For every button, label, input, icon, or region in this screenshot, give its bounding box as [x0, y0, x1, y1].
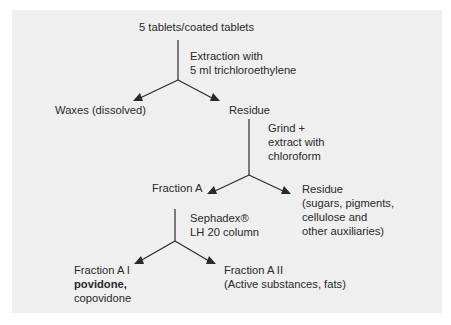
- node-waxes: Waxes (dissolved): [55, 103, 146, 117]
- arrowhead-icon: [281, 186, 291, 194]
- step1-label-line2: 5 ml trichloroethylene: [190, 63, 296, 77]
- node-residue-2-line1: Residue: [302, 182, 343, 196]
- step3-label-line1: Sephadex®: [190, 211, 249, 225]
- node-residue-2-line3: cellulose and: [302, 210, 367, 224]
- node-fraction-a1-line2: povidone,: [74, 277, 127, 291]
- step2-label-line2: extract with: [268, 135, 325, 149]
- node-residue-1: Residue: [229, 103, 270, 117]
- node-fraction-a1-line3: copovidone: [74, 291, 131, 305]
- node-fraction-a2-line1: Fraction A II: [224, 263, 283, 277]
- node-residue-2-line4: other auxiliaries): [302, 224, 384, 238]
- arrowhead-icon: [134, 256, 144, 264]
- node-fraction-a1-line1: Fraction A I: [74, 263, 130, 277]
- node-residue-2-line2: (sugars, pigments,: [302, 196, 394, 210]
- arrowhead-icon: [206, 256, 216, 264]
- arrowhead-icon: [207, 186, 217, 194]
- node-fraction-a2-line2: (Active substances, fats): [224, 277, 346, 291]
- step2-label-line1: Grind +: [268, 121, 305, 135]
- step3-label-line2: LH 20 column: [190, 225, 259, 239]
- arrowhead-icon: [210, 93, 220, 101]
- arrowhead-icon: [133, 93, 143, 101]
- step1-label-line1: Extraction with: [190, 49, 263, 63]
- node-start: 5 tablets/coated tablets: [139, 20, 254, 34]
- step2-label-line3: chloroform: [268, 149, 321, 163]
- node-fraction-a: Fraction A: [152, 181, 202, 195]
